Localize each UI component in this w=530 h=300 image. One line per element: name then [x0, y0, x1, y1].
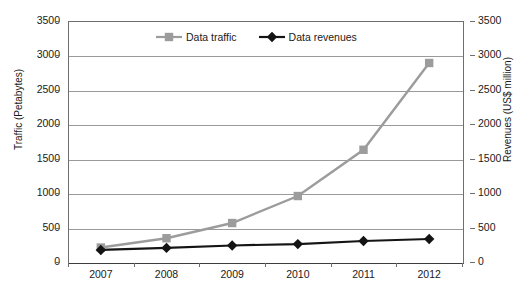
y-axis-right-tick-mark	[470, 159, 475, 160]
legend-item-label: Data traffic	[186, 31, 237, 43]
y-axis-left-tick-label: 2500	[22, 83, 60, 95]
y-axis-right-tick-label: 0	[478, 255, 516, 267]
data-point-marker	[161, 243, 171, 253]
data-point-marker	[424, 234, 434, 244]
legend-item-label: Data revenues	[289, 31, 357, 43]
y-axis-right-tick-mark	[470, 228, 475, 229]
x-axis-tick-label: 2008	[137, 268, 197, 280]
x-axis-tick-label: 2012	[399, 268, 459, 280]
x-axis-tick-mark	[396, 263, 397, 267]
y-axis-right-tick-label: 3000	[478, 48, 516, 60]
x-axis-tick-label: 2010	[268, 268, 328, 280]
series-data-traffic	[97, 59, 434, 252]
y-axis-left-ticks: 3500300025002000150010005000	[22, 0, 60, 300]
x-axis-tick-mark	[462, 263, 463, 267]
x-axis-tick-mark	[331, 263, 332, 267]
x-axis-tick-mark	[134, 263, 135, 267]
y-axis-right-tick-label: 1000	[478, 186, 516, 198]
legend-square-marker-icon	[156, 31, 182, 43]
data-point-marker	[293, 239, 303, 249]
y-axis-left-tick-label: 3500	[22, 14, 60, 26]
y-axis-left-tick-mark	[55, 228, 60, 229]
chart-container: Traffic (Petabytes) Revenues (US$ millio…	[0, 0, 530, 300]
data-series-layer	[68, 21, 462, 262]
chart-legend: Data trafficData revenues	[156, 31, 357, 43]
y-axis-right-tick-mark	[470, 262, 475, 263]
y-axis-right-tick-mark	[470, 124, 475, 125]
y-axis-right-tick-label: 2500	[478, 83, 516, 95]
y-axis-left-tick-label: 1000	[22, 186, 60, 198]
data-point-marker	[228, 219, 236, 227]
y-axis-left-tick-label: 3000	[22, 48, 60, 60]
legend-item[interactable]: Data revenues	[259, 31, 357, 43]
y-axis-left-tick-label: 2000	[22, 117, 60, 129]
x-axis-tick-label: 2007	[71, 268, 131, 280]
data-point-marker	[425, 59, 433, 67]
y-axis-right-tick-mark	[470, 21, 475, 22]
y-axis-right-ticks: 3500300025002000150010005000	[470, 0, 508, 300]
y-axis-right-tick-label: 500	[478, 221, 516, 233]
legend-diamond-marker-icon	[259, 31, 285, 43]
x-axis-tick-label: 2009	[202, 268, 262, 280]
x-axis-tick-label: 2011	[334, 268, 394, 280]
y-axis-left-tick-label: 1500	[22, 152, 60, 164]
x-axis-tick-mark	[68, 263, 69, 267]
data-point-marker	[359, 146, 367, 154]
y-axis-right-tick-label: 2000	[478, 117, 516, 129]
y-axis-right-tick-mark	[470, 55, 475, 56]
y-axis-right-tick-label: 3500	[478, 14, 516, 26]
x-axis-tick-mark	[199, 263, 200, 267]
data-point-marker	[227, 240, 237, 250]
y-axis-left-tick-mark	[55, 262, 60, 263]
series-line	[101, 63, 429, 248]
data-point-marker	[358, 236, 368, 246]
x-axis-tick-mark	[265, 263, 266, 267]
y-axis-left-tick-label: 0	[22, 255, 60, 267]
y-axis-left-tick-mark	[55, 159, 60, 160]
series-data-revenues	[96, 234, 435, 255]
data-point-marker	[162, 234, 170, 242]
data-point-marker	[294, 192, 302, 200]
y-axis-left-tick-mark	[55, 193, 60, 194]
y-axis-left-tick-label: 500	[22, 221, 60, 233]
y-axis-left-tick-mark	[55, 21, 60, 22]
y-axis-right-tick-mark	[470, 90, 475, 91]
y-axis-right-tick-mark	[470, 193, 475, 194]
legend-item[interactable]: Data traffic	[156, 31, 237, 43]
y-axis-left-tick-mark	[55, 124, 60, 125]
y-axis-left-tick-mark	[55, 55, 60, 56]
y-axis-right-tick-label: 1500	[478, 152, 516, 164]
y-axis-left-tick-mark	[55, 90, 60, 91]
